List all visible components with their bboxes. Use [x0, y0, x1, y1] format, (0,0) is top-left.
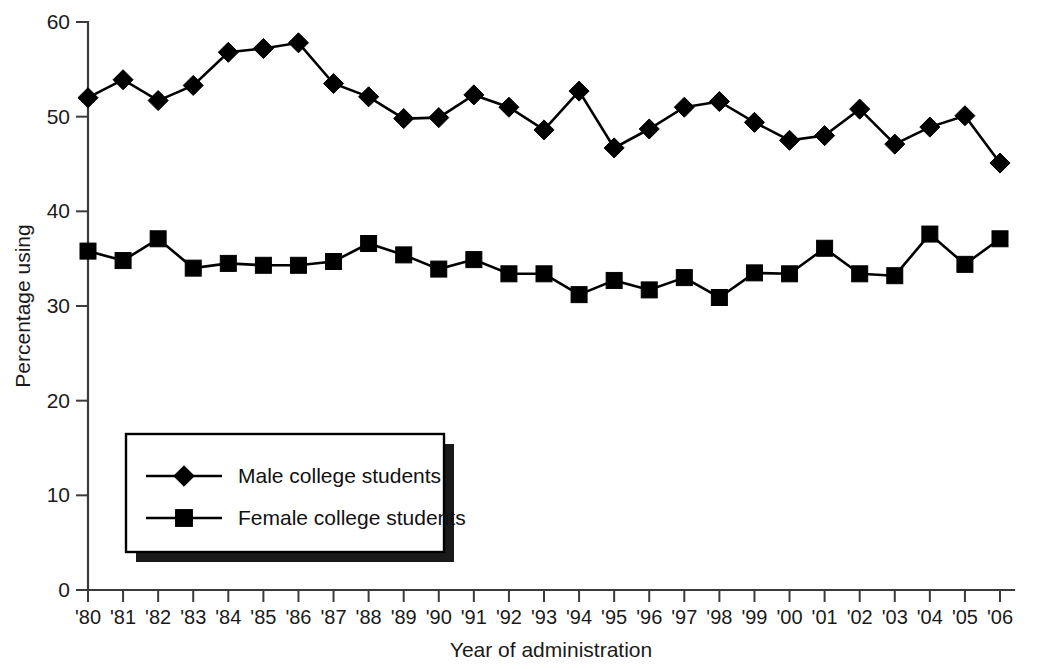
x-tick-label: '83 [180, 606, 206, 628]
x-tick-label: '97 [671, 606, 697, 628]
diamond-marker-icon [394, 109, 414, 129]
square-marker-icon [176, 510, 193, 527]
x-tick-label: '06 [987, 606, 1013, 628]
legend [126, 434, 454, 562]
x-tick-label: '04 [917, 606, 943, 628]
diamond-marker-icon [674, 97, 694, 117]
x-tick-label: '80 [75, 606, 101, 628]
x-tick-label: '01 [812, 606, 838, 628]
diamond-marker-icon [815, 126, 835, 146]
diamond-marker-icon [359, 87, 379, 107]
x-axis-ticks: '80'81'82'83'84'85'86'87'88'89'90'91'92'… [75, 590, 1013, 628]
chart-figure: 0102030405060 '80'81'82'83'84'85'86'87'8… [0, 0, 1043, 669]
square-marker-icon [185, 260, 201, 276]
diamond-marker-icon [253, 38, 273, 58]
legend-item-label: Male college students [238, 464, 441, 487]
x-tick-label: '87 [320, 606, 346, 628]
x-tick-label: '91 [461, 606, 487, 628]
diamond-marker-icon [499, 97, 519, 117]
legend-box [126, 434, 444, 552]
x-tick-label: '00 [776, 606, 802, 628]
square-marker-icon [606, 272, 622, 288]
data-series-group [78, 33, 1010, 306]
diamond-marker-icon [780, 130, 800, 150]
square-marker-icon [80, 243, 96, 259]
y-axis-title: Percentage using [11, 224, 34, 387]
series-female [80, 226, 1008, 305]
x-tick-label: '90 [426, 606, 452, 628]
legend-item-label: Female college students [238, 506, 466, 529]
diamond-marker-icon [955, 106, 975, 126]
y-tick-label: 50 [47, 105, 70, 128]
series-male [78, 33, 1010, 173]
x-tick-label: '95 [601, 606, 627, 628]
square-marker-icon [396, 247, 412, 263]
square-marker-icon [852, 266, 868, 282]
diamond-marker-icon [709, 91, 729, 111]
x-tick-label: '86 [285, 606, 311, 628]
line-chart-canvas: 0102030405060 '80'81'82'83'84'85'86'87'8… [0, 0, 1043, 669]
square-marker-icon [431, 261, 447, 277]
x-tick-label: '81 [110, 606, 136, 628]
square-marker-icon [641, 282, 657, 298]
x-tick-label: '84 [215, 606, 241, 628]
x-tick-label: '93 [531, 606, 557, 628]
square-marker-icon [711, 289, 727, 305]
x-tick-label: '92 [496, 606, 522, 628]
x-axis-title: Year of administration [450, 638, 652, 661]
diamond-marker-icon [990, 153, 1010, 173]
square-marker-icon [255, 257, 271, 273]
diamond-marker-icon [920, 117, 940, 137]
diamond-marker-icon [604, 138, 624, 158]
x-tick-label: '89 [391, 606, 417, 628]
square-marker-icon [466, 252, 482, 268]
diamond-marker-icon [429, 108, 449, 128]
y-tick-label: 10 [47, 483, 70, 506]
y-tick-label: 20 [47, 389, 70, 412]
square-marker-icon [501, 266, 517, 282]
diamond-marker-icon [639, 119, 659, 139]
square-marker-icon [817, 240, 833, 256]
y-tick-label: 0 [58, 578, 70, 601]
x-tick-label: '99 [741, 606, 767, 628]
x-tick-label: '03 [882, 606, 908, 628]
diamond-marker-icon [78, 88, 98, 108]
square-marker-icon [571, 287, 587, 303]
x-tick-label: '98 [706, 606, 732, 628]
square-marker-icon [887, 268, 903, 284]
square-marker-icon [150, 231, 166, 247]
diamond-marker-icon [744, 112, 764, 132]
y-tick-label: 60 [47, 10, 70, 33]
square-marker-icon [782, 266, 798, 282]
x-tick-label: '94 [566, 606, 592, 628]
square-marker-icon [361, 236, 377, 252]
square-marker-icon [922, 226, 938, 242]
square-marker-icon [115, 253, 131, 269]
diamond-marker-icon [464, 85, 484, 105]
x-tick-label: '02 [847, 606, 873, 628]
x-tick-label: '85 [250, 606, 276, 628]
square-marker-icon [746, 265, 762, 281]
x-tick-label: '96 [636, 606, 662, 628]
y-tick-label: 30 [47, 294, 70, 317]
square-marker-icon [957, 256, 973, 272]
x-tick-label: '05 [952, 606, 978, 628]
square-marker-icon [290, 257, 306, 273]
diamond-marker-icon [148, 91, 168, 111]
square-marker-icon [676, 270, 692, 286]
square-marker-icon [536, 266, 552, 282]
y-tick-label: 40 [47, 199, 70, 222]
x-tick-label: '82 [145, 606, 171, 628]
diamond-marker-icon [113, 70, 133, 90]
x-tick-label: '88 [356, 606, 382, 628]
square-marker-icon [992, 231, 1008, 247]
square-marker-icon [326, 254, 342, 270]
square-marker-icon [220, 255, 236, 271]
